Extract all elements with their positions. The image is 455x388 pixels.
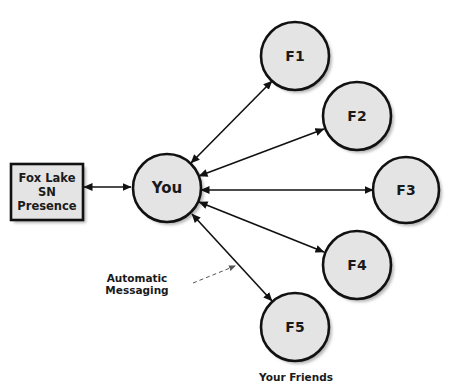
presence-box <box>11 164 83 220</box>
friend-node-f4 <box>323 231 391 299</box>
friend-node-f2 <box>323 82 391 150</box>
nodes <box>11 22 439 361</box>
friend-node-f3 <box>373 157 439 223</box>
you-node <box>133 154 201 222</box>
arrow-you-f1 <box>191 81 272 163</box>
friend-node-f1 <box>261 22 329 90</box>
friend-node-f5 <box>261 293 329 361</box>
dashed-arrow-automatic-messaging <box>193 266 235 283</box>
network-diagram <box>0 0 455 388</box>
arrow-you-f4 <box>199 202 324 252</box>
